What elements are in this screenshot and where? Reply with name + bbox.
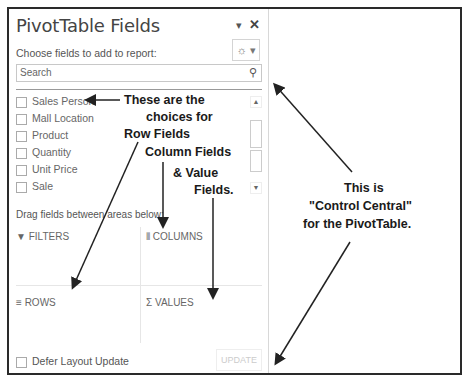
annotation-arrows	[0, 0, 469, 382]
